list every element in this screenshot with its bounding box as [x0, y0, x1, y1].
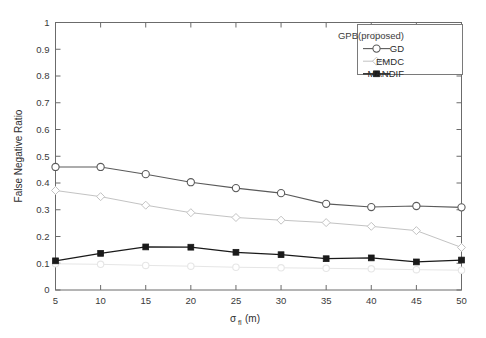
data-point: [323, 256, 329, 262]
y-tick-label: 0.2: [36, 231, 49, 242]
data-point: [458, 204, 465, 211]
x-axis-sigma-symbol: σ: [230, 313, 237, 324]
data-point: [233, 249, 239, 255]
data-point: [97, 163, 104, 170]
y-tick-label: 0: [44, 284, 49, 295]
legend-label: GPB(proposed): [338, 30, 404, 41]
x-tick-label: 5: [53, 295, 58, 306]
x-tick-label: 10: [95, 295, 106, 306]
data-point: [188, 263, 194, 269]
y-tick-label: 0.6: [36, 124, 49, 135]
data-point: [413, 259, 419, 265]
data-point: [187, 179, 194, 186]
x-tick-label: 45: [411, 295, 422, 306]
data-point: [368, 266, 374, 272]
data-point: [97, 261, 103, 267]
x-tick-label: 35: [321, 295, 332, 306]
legend-item-mandif[interactable]: MANDIF: [363, 68, 404, 79]
data-point: [459, 257, 465, 263]
figure-container: 00.10.20.30.40.50.60.70.80.91 5101520253…: [0, 0, 486, 338]
data-point: [458, 267, 464, 273]
x-tick-label: 30: [276, 295, 287, 306]
data-point: [188, 244, 194, 250]
data-point: [323, 265, 329, 271]
y-tick-label: 0.3: [36, 204, 49, 215]
y-tick-label: 0.8: [36, 70, 49, 81]
y-tick-label: 0.4: [36, 177, 49, 188]
legend-label: GD: [390, 43, 404, 54]
data-point: [52, 163, 59, 170]
y-tick-label: 0.5: [36, 151, 49, 162]
data-point: [278, 265, 284, 271]
x-tick-label: 20: [186, 295, 197, 306]
legend-label: MANDIF: [368, 68, 405, 79]
x-axis-unit: (m): [245, 313, 260, 324]
legend-marker-sample: [373, 45, 380, 52]
data-point: [278, 252, 284, 258]
data-point: [233, 264, 239, 270]
x-tick-label: 15: [140, 295, 151, 306]
line-chart: 00.10.20.30.40.50.60.70.80.91 5101520253…: [0, 0, 486, 338]
legend-item-gpb-proposed[interactable]: GPB(proposed): [338, 30, 404, 41]
data-point: [323, 200, 330, 207]
data-point: [413, 266, 419, 272]
data-point: [143, 244, 149, 250]
y-tick-label: 0.9: [36, 44, 49, 55]
x-tick-label: 50: [456, 295, 467, 306]
data-point: [53, 258, 59, 264]
data-point: [368, 255, 374, 261]
y-tick-label: 1: [44, 17, 49, 28]
data-point: [277, 190, 284, 197]
x-tick-label: 25: [231, 295, 242, 306]
x-tick-label: 40: [366, 295, 377, 306]
y-tick-label: 0.1: [36, 258, 49, 269]
data-point: [143, 262, 149, 268]
data-point: [142, 171, 149, 178]
data-point: [98, 250, 104, 256]
data-point: [232, 184, 239, 191]
data-point: [368, 203, 375, 210]
legend-label: EMDC: [376, 56, 404, 67]
y-tick-label: 0.7: [36, 97, 49, 108]
y-axis-title: False Negative Ratio: [13, 109, 24, 202]
data-point: [413, 202, 420, 209]
x-axis-subscript: fl: [238, 319, 242, 326]
